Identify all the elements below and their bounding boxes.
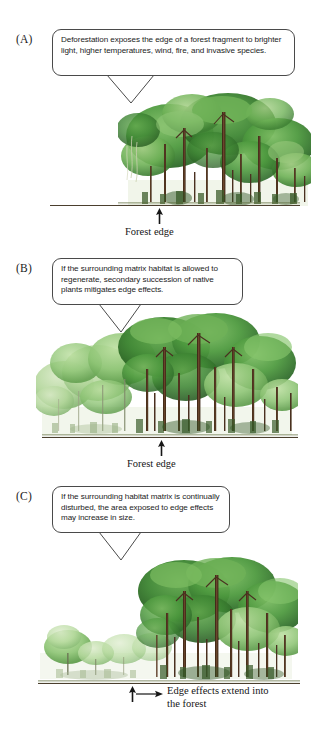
callout-text-c: If the surrounding habitat matrix is con… xyxy=(61,492,221,524)
panel-label-b: (B) xyxy=(16,262,32,274)
ground-line-a xyxy=(50,205,300,206)
ground-shadow-c xyxy=(38,680,300,683)
up-arrow-icon-b xyxy=(156,440,167,456)
ground-shadow-b xyxy=(42,434,298,437)
edge-effects-caption-line1: Edge effects extend into xyxy=(167,685,307,698)
callout-bubble-b: If the surrounding matrix habitat is all… xyxy=(52,258,243,305)
ground-line-b xyxy=(42,437,298,438)
edge-effects-caption-line2: the forest xyxy=(167,698,307,711)
forest-illustration-c xyxy=(34,549,298,685)
panel-label-a: (A) xyxy=(16,33,33,45)
ground-shadow-a xyxy=(118,202,300,205)
callout-text-a: Deforestation exposes the edge of a fore… xyxy=(61,35,286,56)
forest-edge-caption-a: Forest edge xyxy=(125,226,174,237)
forest-illustration-a xyxy=(118,84,311,210)
panel-a: (A) Deforestation exposes the edge of a … xyxy=(0,0,311,245)
panel-label-c: (C) xyxy=(16,490,32,502)
callout-bubble-c: If the surrounding habitat matrix is con… xyxy=(52,486,230,533)
up-arrow-icon-a xyxy=(154,208,165,224)
forest-illustration-b xyxy=(36,307,298,439)
edge-effects-caption-c: Edge effects extend into the forest xyxy=(167,685,307,710)
callout-bubble-a: Deforestation exposes the edge of a fore… xyxy=(52,29,295,76)
panel-c: (C) If the surrounding habitat matrix is… xyxy=(0,477,311,734)
panel-b: (B) If the surrounding matrix habitat is… xyxy=(0,245,311,477)
callout-text-b: If the surrounding matrix habitat is all… xyxy=(61,264,234,296)
forest-edge-caption-b: Forest edge xyxy=(127,458,176,469)
right-arrow-icon-c xyxy=(136,689,164,699)
